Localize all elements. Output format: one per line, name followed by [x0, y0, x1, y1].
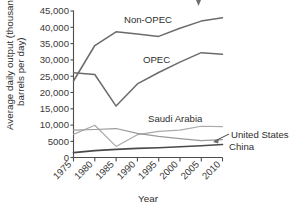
- chart-container: Average daily output (thousand barrels p…: [0, 0, 295, 209]
- series-path-united-states: [74, 129, 223, 141]
- y-tick-label: 35,000: [40, 38, 69, 49]
- y-tick-label: 15,000: [40, 103, 69, 114]
- mouse-pointer-icon: [194, 0, 204, 6]
- x-axis-tick-labels: 1975 1980 1985 1990 1995 2000 2005 2010: [51, 159, 223, 182]
- series-label-china: China: [229, 141, 255, 152]
- y-tick-label: 20,000: [40, 87, 69, 98]
- x-tick-label: 2005: [178, 159, 201, 182]
- y-axis-tick-labels: 45,000 40,000 35,000 30,000 25,000 20,00…: [40, 5, 69, 163]
- x-axis-title: Year: [138, 193, 159, 204]
- x-tick-label: 2000: [157, 159, 180, 182]
- x-tick-label: 1990: [114, 159, 137, 182]
- y-tick-label: 5000: [48, 136, 69, 147]
- line-chart: Average daily output (thousand barrels p…: [0, 0, 295, 209]
- x-tick-label: 1980: [72, 159, 95, 182]
- series-path-non-opec: [74, 18, 223, 81]
- y-tick-label: 30,000: [40, 54, 69, 65]
- y-axis-title-line2: barrels per day): [15, 37, 26, 106]
- series-label-saudi-arabia: Saudi Arabia: [148, 113, 203, 124]
- x-tick-label: 1995: [136, 159, 159, 182]
- y-axis-title-line1: Average daily output (thousand: [4, 0, 15, 130]
- y-tick-label: 45,000: [40, 5, 69, 16]
- x-tick-label: 2010: [200, 159, 223, 182]
- y-tick-label: 25,000: [40, 71, 69, 82]
- x-tick-label: 1975: [51, 159, 74, 182]
- series-label-united-states: United States: [231, 129, 289, 140]
- series-paths: [74, 18, 223, 153]
- x-tick-label: 1985: [93, 159, 116, 182]
- y-tick-label: 40,000: [40, 22, 69, 33]
- y-axis-title: Average daily output (thousand barrels p…: [4, 0, 26, 130]
- series-path-saudi-arabia: [74, 125, 223, 146]
- series-label-non-opec: Non-OPEC: [124, 14, 172, 25]
- series-label-opec: OPEC: [143, 54, 170, 65]
- y-tick-label: 10,000: [40, 119, 69, 130]
- series-path-china: [74, 144, 223, 152]
- united-states-leader-arrow: [213, 134, 229, 143]
